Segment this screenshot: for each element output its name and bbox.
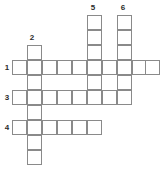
cell-r1-c4[interactable]: [57, 60, 72, 75]
cell-r3-c1[interactable]: [12, 90, 27, 105]
cell-c5-r1[interactable]: [87, 15, 102, 30]
clue-number-1: 1: [2, 63, 12, 72]
cell-r3-c2[interactable]: [27, 90, 42, 105]
cell-c2-r4[interactable]: [27, 135, 42, 150]
cell-c6-r2[interactable]: [117, 30, 132, 45]
cell-r4-c6[interactable]: [87, 120, 102, 135]
cell-c2-r3[interactable]: [27, 105, 42, 120]
cell-c2-r2[interactable]: [27, 75, 42, 90]
cell-r4-c2[interactable]: [27, 120, 42, 135]
cell-c2-r5[interactable]: [27, 150, 42, 165]
cell-c5-r2[interactable]: [87, 30, 102, 45]
clue-number-5: 5: [88, 3, 98, 12]
cell-r1-c6[interactable]: [87, 60, 102, 75]
cell-r3-c7[interactable]: [102, 90, 117, 105]
cell-c2-r1[interactable]: [27, 45, 42, 60]
cell-r1-c3[interactable]: [42, 60, 57, 75]
cell-c6-r4[interactable]: [117, 75, 132, 90]
cell-r4-c3[interactable]: [42, 120, 57, 135]
cell-r1-c7[interactable]: [102, 60, 117, 75]
clue-number-6: 6: [118, 3, 128, 12]
cell-c5-r4[interactable]: [87, 75, 102, 90]
cell-r1-c10[interactable]: [145, 60, 160, 75]
cell-r1-c2[interactable]: [27, 60, 42, 75]
cell-c6-r1[interactable]: [117, 15, 132, 30]
cell-r3-c6[interactable]: [87, 90, 102, 105]
clue-number-3: 3: [2, 93, 12, 102]
crossword-grid: 123456: [0, 0, 165, 169]
cell-r4-c4[interactable]: [57, 120, 72, 135]
cell-c5-r3[interactable]: [87, 45, 102, 60]
clue-number-2: 2: [27, 33, 37, 42]
cell-r3-c5[interactable]: [72, 90, 87, 105]
cell-r3-c4[interactable]: [57, 90, 72, 105]
cell-r4-c5[interactable]: [72, 120, 87, 135]
clue-number-4: 4: [2, 123, 12, 132]
cell-r3-c8[interactable]: [117, 90, 132, 105]
cell-c6-r3[interactable]: [117, 45, 132, 60]
cell-r1-c1[interactable]: [12, 60, 27, 75]
cell-r1-c8[interactable]: [117, 60, 132, 75]
cell-r1-c5[interactable]: [72, 60, 87, 75]
cell-r4-c1[interactable]: [12, 120, 27, 135]
cell-r3-c3[interactable]: [42, 90, 57, 105]
